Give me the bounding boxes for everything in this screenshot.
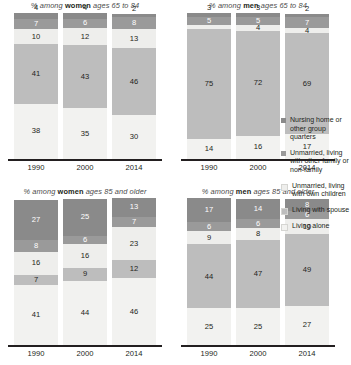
segment-value: 49 — [303, 266, 311, 274]
segment-value: 16 — [32, 259, 40, 267]
bar-column: 17694425 — [187, 199, 231, 345]
year-label: 2000 — [236, 349, 280, 358]
year-label: 2014 — [112, 349, 156, 358]
stacked-bar: 7104138 — [14, 13, 58, 159]
segment-value: 5 — [256, 17, 260, 24]
bar-segment-own-children: 10 — [14, 29, 58, 44]
bar-segment-alone: 27 — [285, 306, 329, 345]
year-label: 2000 — [236, 163, 280, 172]
bar-segment-own-children: 16 — [14, 252, 58, 275]
bar-segment-spouse: 9 — [63, 268, 107, 281]
bar-segment-own-children: 16 — [63, 244, 107, 267]
segment-value: 6 — [207, 223, 211, 231]
bar-segment-other-family: 6 — [63, 19, 107, 28]
bar-segment-nursing-home: 25 — [63, 199, 107, 236]
year-label: 1990 — [14, 349, 58, 358]
bar-segment-own-children: 23 — [112, 227, 156, 261]
bar-segment-other-family: 8 — [112, 17, 156, 29]
segment-value: 6 — [83, 236, 87, 244]
bar-segment-own-children: 12 — [63, 28, 107, 46]
legend-label: Unmarried, living with other family or n… — [290, 149, 351, 175]
segment-value: 13 — [130, 203, 138, 211]
stacked-bar: 547216 — [236, 13, 280, 159]
segment-value: 23 — [130, 240, 138, 248]
bar-segment-nursing-home: 17 — [187, 198, 231, 223]
bar-segment-alone: 25 — [236, 308, 280, 345]
chart-legend: Nursing home or other group quartersUnma… — [281, 116, 351, 238]
bar-top-value-label: 3 — [236, 3, 280, 12]
bar-segment-alone: 25 — [187, 308, 231, 345]
segment-value: 16 — [254, 143, 262, 151]
year-label: 2000 — [63, 349, 107, 358]
bar-column: 71041384 — [14, 13, 58, 159]
segment-value: 43 — [81, 73, 89, 81]
bar-segment-alone: 38 — [14, 104, 58, 159]
bar-segment-nursing-home: 13 — [112, 198, 156, 217]
bar-column: 61243354 — [63, 13, 107, 159]
panel-title-suffix: ages 85 and older — [84, 187, 147, 196]
legend-item: Unmarried, living with other family or n… — [281, 149, 351, 175]
bar-segment-other-family: 6 — [236, 219, 280, 228]
bar-segment-nursing-home: 14 — [236, 199, 280, 219]
bar-segment-nursing-home: 27 — [14, 200, 58, 239]
segment-value: 41 — [32, 70, 40, 78]
year-labels: 1990 2000 2014 — [0, 163, 170, 175]
segment-value: 10 — [32, 33, 40, 41]
panel-women-85-plus: % among women ages 85 and older 27816741… — [0, 186, 170, 365]
legend-swatch-icon — [281, 224, 288, 231]
bar-segment-spouse: 46 — [112, 48, 156, 115]
bar-top-value-label: 4 — [63, 3, 107, 12]
segment-value: 27 — [32, 216, 40, 224]
segment-value: 14 — [254, 205, 262, 213]
bar-segment-other-family: 6 — [63, 236, 107, 245]
bar-segment-alone: 41 — [14, 285, 58, 345]
segment-value: 12 — [81, 33, 89, 41]
year-labels: 1990 2000 2014 — [0, 349, 170, 361]
bar-segment-other-family: 5 — [236, 17, 280, 24]
legend-label: Living alone — [292, 222, 329, 231]
year-labels: 1990 2000 2014 — [173, 349, 343, 361]
segment-value: 30 — [130, 133, 138, 141]
panel-title: % among women ages 85 and older — [0, 187, 170, 196]
bar-segment-spouse: 41 — [14, 44, 58, 104]
segment-value: 69 — [303, 80, 311, 88]
bar-segment-other-family: 8 — [14, 240, 58, 252]
bar-column: 81346302 — [112, 13, 156, 159]
legend-swatch-icon — [281, 118, 286, 123]
stacked-bar: 137231246 — [112, 198, 156, 345]
bar-segment-spouse: 12 — [112, 260, 156, 278]
stacked-bar: 27816741 — [14, 200, 58, 345]
stacked-bar: 14684725 — [236, 199, 280, 345]
legend-item: Living alone — [281, 222, 351, 231]
bar-column: 27816741 — [14, 199, 58, 345]
year-label: 1990 — [187, 349, 231, 358]
segment-value: 47 — [254, 270, 262, 278]
bar-segment-other-family: 7 — [285, 17, 329, 27]
bar-segment-alone: 46 — [112, 278, 156, 345]
year-label: 2014 — [285, 349, 329, 358]
bar-segment-alone: 44 — [63, 281, 107, 345]
bar-segment-own-children: 9 — [187, 231, 231, 244]
bar-segment-own-children: 13 — [112, 29, 156, 48]
legend-swatch-icon — [281, 151, 286, 156]
bar-column: 25616944 — [63, 199, 107, 345]
segment-value: 41 — [32, 311, 40, 319]
panel-title-prefix: % among — [23, 187, 57, 196]
chart-figure: % among women ages 65 to 84 710413846124… — [0, 0, 351, 365]
bar-segment-alone: 30 — [112, 115, 156, 159]
segment-value: 27 — [303, 321, 311, 329]
segment-value: 46 — [130, 308, 138, 316]
segment-value: 8 — [132, 19, 136, 27]
bar-segment-alone: 14 — [187, 139, 231, 159]
bar-segment-other-family: 7 — [112, 217, 156, 227]
year-label: 2014 — [112, 163, 156, 172]
segment-value: 46 — [130, 78, 138, 86]
stacked-bar: 57514 — [187, 13, 231, 159]
bar-column: 5472163 — [236, 13, 280, 159]
panel-title-prefix: % among — [202, 187, 236, 196]
stacked-bar: 8134630 — [112, 14, 156, 159]
bar-segment-spouse: 72 — [236, 31, 280, 136]
panel-title-group: men — [236, 187, 252, 196]
segment-value: 9 — [207, 234, 211, 242]
year-label: 2000 — [63, 163, 107, 172]
